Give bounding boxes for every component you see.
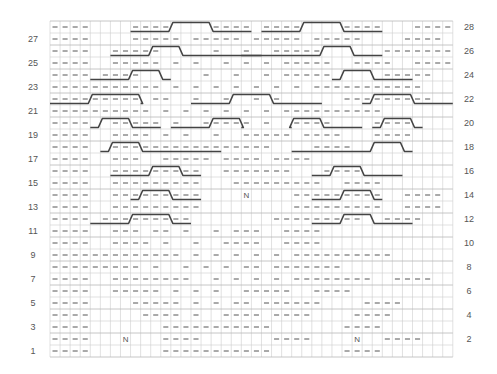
- knitting-chart: NNN 272523211917151311975312826242220181…: [0, 0, 497, 374]
- row-label-left: 25: [28, 58, 38, 68]
- row-label-left: 11: [28, 226, 37, 236]
- row-label-right: 22: [464, 94, 474, 104]
- row-label-right: 28: [464, 22, 474, 32]
- no-stitch-symbol: N: [354, 335, 360, 344]
- row-label-left: 19: [28, 130, 38, 140]
- row-label-right: 16: [464, 166, 474, 176]
- row-label-left: 3: [30, 322, 35, 332]
- no-stitch-symbol: N: [123, 335, 129, 344]
- row-label-right: 24: [464, 70, 474, 80]
- row-label-right: 20: [464, 118, 474, 128]
- row-label-right: 12: [464, 214, 474, 224]
- row-label-left: 21: [28, 106, 38, 116]
- row-label-left: 9: [30, 250, 35, 260]
- row-label-left: 5: [30, 298, 35, 308]
- row-label-left: 13: [28, 202, 38, 212]
- row-label-left: 27: [28, 34, 38, 44]
- row-label-left: 23: [28, 82, 38, 92]
- row-label-left: 1: [30, 346, 35, 356]
- row-label-right: 18: [464, 142, 474, 152]
- row-label-right: 6: [466, 286, 471, 296]
- chart-grid: [50, 21, 453, 357]
- row-label-left: 15: [28, 178, 38, 188]
- row-label-right: 2: [466, 334, 471, 344]
- row-label-right: 26: [464, 46, 474, 56]
- row-label-right: 14: [464, 190, 474, 200]
- row-label-right: 4: [466, 310, 471, 320]
- row-label-right: 8: [466, 262, 471, 272]
- row-label-left: 17: [28, 154, 38, 164]
- no-stitch-symbol: N: [243, 191, 249, 200]
- row-label-left: 7: [30, 274, 35, 284]
- row-label-right: 10: [464, 238, 474, 248]
